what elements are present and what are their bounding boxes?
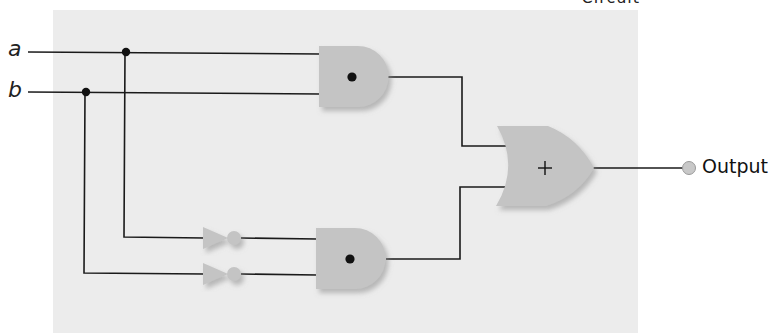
wire-not-a-out <box>241 238 317 239</box>
not-gate-b <box>203 263 241 285</box>
not-gate-a <box>203 227 241 249</box>
wire-and-top-out <box>388 77 510 146</box>
wire-b <box>28 92 320 94</box>
wire-not-b-out <box>241 274 317 275</box>
and-symbol-dot-top <box>347 72 356 81</box>
output-label: Output <box>702 157 768 176</box>
junction-b <box>82 88 90 96</box>
wire-a-branch <box>124 52 204 238</box>
wire-b-branch <box>84 92 204 274</box>
wire-and-bottom-out <box>386 187 508 259</box>
wire-a <box>28 52 320 54</box>
logic-circuit <box>0 0 778 333</box>
junction-a <box>122 48 130 56</box>
and-symbol-dot-bottom <box>345 254 354 263</box>
output-terminal-icon <box>683 162 696 175</box>
